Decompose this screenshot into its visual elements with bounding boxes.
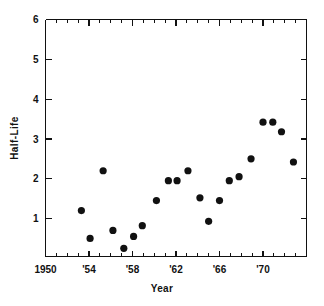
data-point <box>226 177 233 184</box>
data-point <box>216 197 223 204</box>
data-point <box>139 222 146 229</box>
axes-group <box>46 20 307 257</box>
data-point <box>184 167 191 174</box>
x-tick-label: '66 <box>213 264 227 275</box>
data-point <box>269 119 276 126</box>
data-point <box>109 227 116 234</box>
x-axis-label: Year <box>0 283 324 294</box>
data-point <box>153 197 160 204</box>
data-point <box>196 194 203 201</box>
y-tick-label: 3 <box>33 134 39 145</box>
y-tick-label: 4 <box>33 94 39 105</box>
data-point <box>235 173 242 180</box>
y-tick-label: 1 <box>33 213 39 224</box>
data-point <box>205 218 212 225</box>
chart-figure: 1950'54'58'62'66'70123456 Half-Life Year <box>0 0 324 306</box>
data-point <box>100 167 107 174</box>
data-point <box>86 235 93 242</box>
data-point <box>259 119 266 126</box>
x-tick-label: '62 <box>169 264 183 275</box>
x-tick-label: '70 <box>256 264 270 275</box>
data-point <box>165 177 172 184</box>
data-point <box>130 233 137 240</box>
y-tick-label: 2 <box>33 173 39 184</box>
y-axis-label-text: Half-Life <box>9 116 20 160</box>
axis-tick-labels-group: 1950'54'58'62'66'70123456 <box>33 14 270 274</box>
data-point <box>247 155 254 162</box>
y-axis-label: Half-Life <box>6 98 22 178</box>
x-tick-label: '54 <box>82 264 96 275</box>
data-points-group <box>78 119 297 252</box>
x-tick-label: '58 <box>126 264 140 275</box>
data-point <box>290 158 297 165</box>
y-tick-label: 5 <box>33 54 39 65</box>
data-point <box>173 177 180 184</box>
data-point <box>78 207 85 214</box>
x-tick-label: 1950 <box>34 264 57 275</box>
y-tick-label: 6 <box>33 14 39 25</box>
data-point <box>278 128 285 135</box>
data-point <box>120 245 127 252</box>
scatter-plot-canvas: 1950'54'58'62'66'70123456 <box>0 0 324 306</box>
axis-ticks-group <box>46 20 307 257</box>
